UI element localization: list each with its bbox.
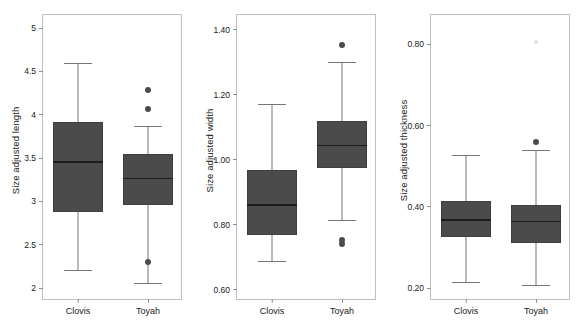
y-axis-title-text: Size adjusted thickness xyxy=(399,99,410,201)
y-axis-tick-label: 4 xyxy=(31,110,36,120)
box-group-clovis xyxy=(43,15,113,299)
y-axis-tick-label: 5 xyxy=(31,23,36,33)
y-axis-tick: 0.60 xyxy=(407,121,431,131)
y-axis-title: Size adjusted length xyxy=(6,0,26,300)
x-axis-tick-mark xyxy=(465,299,466,303)
x-axis-tick-label: Toyah xyxy=(330,306,354,316)
y-axis-tick-label: 1.40 xyxy=(213,25,230,35)
box-iqr xyxy=(511,205,561,243)
y-axis-tick: 1.00 xyxy=(213,155,237,165)
x-axis-tick-clovis: Clovis xyxy=(66,299,91,316)
y-axis-tick: 2.5 xyxy=(24,240,43,250)
y-axis-tick: 1.20 xyxy=(213,90,237,100)
x-axis-tick-label: Clovis xyxy=(260,306,285,316)
y-axis-tick-label: 4.5 xyxy=(24,66,36,76)
x-axis-tick-mark xyxy=(536,299,537,303)
cap-upper xyxy=(134,126,162,127)
y-axis-tick-label: 0.60 xyxy=(407,121,424,131)
cap-lower xyxy=(452,282,480,283)
whisker-upper xyxy=(78,63,79,123)
whisker-upper xyxy=(466,155,467,201)
whisker-upper xyxy=(272,104,273,170)
plot-area: 0.600.801.001.201.40ClovisToyah xyxy=(236,14,376,300)
x-axis-tick-label: Clovis xyxy=(66,306,91,316)
outlier-point xyxy=(145,259,151,265)
cap-lower xyxy=(522,285,550,286)
x-axis-tick-clovis: Clovis xyxy=(454,299,479,316)
whisker-upper xyxy=(342,62,343,121)
y-axis-tick: 5 xyxy=(31,23,43,33)
cap-lower xyxy=(328,220,356,221)
box-group-clovis xyxy=(431,15,501,299)
median-line xyxy=(247,204,297,206)
outlier-point xyxy=(533,139,539,145)
x-axis-tick-mark xyxy=(342,299,343,303)
x-axis-tick-mark xyxy=(148,299,149,303)
panel-2: Size adjusted width0.600.801.001.201.40C… xyxy=(194,0,388,333)
panel-3: Size adjusted thickness0.200.400.600.80C… xyxy=(388,0,582,333)
median-line xyxy=(441,219,491,221)
boxplot-figure: Size adjusted length22.533.544.55ClovisT… xyxy=(0,0,582,333)
whisker-upper xyxy=(148,126,149,154)
x-axis-tick-mark xyxy=(271,299,272,303)
whisker-lower xyxy=(466,237,467,282)
x-axis-tick-mark xyxy=(77,299,78,303)
x-axis-tick-label: Clovis xyxy=(454,306,479,316)
whisker-lower xyxy=(536,243,537,284)
cap-upper xyxy=(522,150,550,151)
y-axis-tick-label: 3.5 xyxy=(24,153,36,163)
outlier-point xyxy=(145,87,151,93)
box-iqr xyxy=(247,170,297,235)
box-group-clovis xyxy=(237,15,307,299)
x-axis-tick-label: Toyah xyxy=(524,306,548,316)
y-axis-title: Size adjusted width xyxy=(200,0,220,300)
y-axis-tick: 0.40 xyxy=(407,202,431,212)
whisker-upper xyxy=(536,150,537,205)
y-axis-tick: 3 xyxy=(31,196,43,206)
panel-1: Size adjusted length22.533.544.55ClovisT… xyxy=(0,0,194,333)
x-axis-tick-toyah: Toyah xyxy=(136,299,160,316)
box-iqr xyxy=(53,122,103,211)
y-axis-tick: 4.5 xyxy=(24,66,43,76)
y-axis-tick-label: 1.00 xyxy=(213,155,230,165)
y-axis-tick-label: 0.60 xyxy=(213,285,230,295)
box-group-toyah xyxy=(307,15,377,299)
cap-lower xyxy=(258,261,286,262)
plot-area: 22.533.544.55ClovisToyah xyxy=(42,14,182,300)
y-axis-tick: 0.80 xyxy=(213,220,237,230)
outlier-point xyxy=(339,42,345,48)
y-axis-tick-label: 0.80 xyxy=(213,220,230,230)
y-axis-tick: 0.80 xyxy=(407,39,431,49)
median-line xyxy=(317,145,367,147)
y-axis-tick: 0.60 xyxy=(213,285,237,295)
median-line xyxy=(511,221,561,223)
y-axis-tick: 0.20 xyxy=(407,283,431,293)
outlier-point xyxy=(145,106,151,112)
median-line xyxy=(123,178,173,180)
cap-lower xyxy=(134,283,162,284)
y-axis-tick-label: 3 xyxy=(31,196,36,206)
cap-upper xyxy=(258,104,286,105)
outlier-point xyxy=(339,241,345,247)
box-group-toyah xyxy=(113,15,183,299)
y-axis-tick-label: 0.80 xyxy=(407,39,424,49)
x-axis-tick-clovis: Clovis xyxy=(260,299,285,316)
y-axis-tick: 2 xyxy=(31,283,43,293)
asterisk-mark: * xyxy=(534,39,538,50)
y-axis-tick-label: 2.5 xyxy=(24,240,36,250)
y-axis-tick-label: 2 xyxy=(31,283,36,293)
whisker-lower xyxy=(148,205,149,283)
y-axis-tick-label: 0.20 xyxy=(407,283,424,293)
box-group-toyah: * xyxy=(501,15,571,299)
x-axis-tick-toyah: Toyah xyxy=(330,299,354,316)
x-axis-tick-toyah: Toyah xyxy=(524,299,548,316)
cap-lower xyxy=(64,270,92,271)
whisker-lower xyxy=(342,168,343,219)
whisker-lower xyxy=(272,235,273,261)
cap-upper xyxy=(64,63,92,64)
y-axis-tick: 1.40 xyxy=(213,25,237,35)
y-axis-tick: 4 xyxy=(31,110,43,120)
y-axis-tick-label: 0.40 xyxy=(407,202,424,212)
plot-area: 0.200.400.600.80Clovis*Toyah xyxy=(430,14,570,300)
y-axis-tick-label: 1.20 xyxy=(213,90,230,100)
